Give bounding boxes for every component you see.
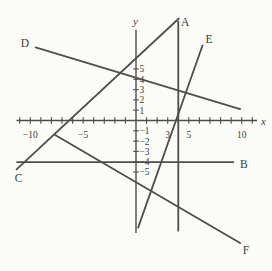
x-tick-label-5: 5 xyxy=(186,130,191,140)
line-label-E: E xyxy=(205,33,212,45)
y-tick-label--5: −5 xyxy=(140,167,150,177)
line-label-B: B xyxy=(240,158,248,170)
y-tick-label--3: −3 xyxy=(140,147,150,157)
line-label-F: F xyxy=(243,244,249,256)
x-tick-label-10: 10 xyxy=(237,130,247,140)
x-tick-label--5: −5 xyxy=(78,130,88,140)
x-tick-label--10: −10 xyxy=(23,130,38,140)
line-label-A: A xyxy=(181,16,190,28)
line-label-C: C xyxy=(15,172,23,184)
y-tick-label-1: 1 xyxy=(140,106,145,116)
x-axis-label: x xyxy=(260,115,266,127)
line-C xyxy=(17,19,179,170)
y-tick-label-3: 3 xyxy=(140,85,145,95)
line-label-D: D xyxy=(21,37,29,49)
coordinate-plane: −10−5351054321−1−2−3−4−5xyABCDEF xyxy=(0,0,272,271)
y-tick-label--2: −2 xyxy=(140,137,150,147)
y-tick-label--1: −1 xyxy=(140,126,150,136)
y-tick-label-2: 2 xyxy=(140,95,145,105)
textbook-line-graph-figure: −10−5351054321−1−2−3−4−5xyABCDEF xyxy=(0,0,272,271)
y-tick-label-5: 5 xyxy=(140,64,145,74)
y-axis-label: y xyxy=(132,15,138,27)
